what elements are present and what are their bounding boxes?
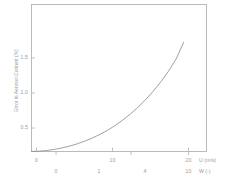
data-series-line	[32, 42, 184, 151]
x-secondary-tick-label-3: 10	[186, 169, 192, 174]
y-tick-marks	[32, 58, 36, 128]
chart-figure: 0.5 1.0 1.5 Error in Aerosol Content (%)…	[0, 0, 227, 183]
x-axis-title-secondary: W (-)	[199, 169, 211, 174]
x-secondary-tick-label-0: 0	[55, 169, 58, 174]
x-primary-tick-label-1: 10	[110, 158, 116, 163]
plot-canvas	[0, 0, 227, 183]
x-primary-tick-label-0: 0	[35, 158, 38, 163]
y-tick-label-0: 0.5	[8, 125, 28, 130]
x-secondary-tick-label-2: 4	[144, 169, 147, 174]
plot-frame	[32, 5, 207, 152]
x-tick-marks-secondary	[56, 152, 189, 156]
x-primary-tick-label-2: 20	[186, 158, 192, 163]
x-secondary-tick-label-1: 1	[98, 169, 101, 174]
y-axis-title: Error in Aerosol Content (%)	[14, 43, 19, 119]
x-axis-title-primary: U (m/s)	[199, 158, 216, 163]
